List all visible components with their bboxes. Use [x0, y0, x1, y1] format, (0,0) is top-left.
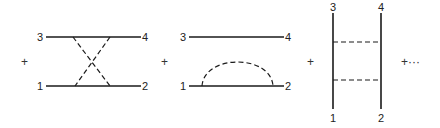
label-1: 1	[330, 112, 336, 124]
plus-ellipsis-operator: +···	[401, 55, 420, 69]
plus-operator: +	[161, 55, 168, 69]
label-1: 1	[180, 80, 186, 92]
label-3: 3	[37, 31, 43, 43]
term-self-energy-loop: + 3 4 1 2	[161, 31, 291, 92]
dashed-arc	[202, 62, 273, 86]
plus-operator: +	[307, 55, 314, 69]
label-2: 2	[142, 80, 148, 92]
feynman-diagram-series: + 3 4 1 2 + 3 4 1 2 + 3 4 1 2 +···	[0, 0, 440, 128]
label-2: 2	[378, 112, 384, 124]
label-4: 4	[378, 1, 384, 13]
term-ladder-exchange: + 3 4 1 2	[307, 1, 384, 124]
label-4: 4	[142, 31, 148, 43]
label-1: 1	[37, 80, 43, 92]
label-3: 3	[180, 31, 186, 43]
label-2: 2	[285, 80, 291, 92]
term-crossed-exchange: + 3 4 1 2	[21, 31, 148, 92]
label-4: 4	[285, 31, 291, 43]
label-3: 3	[330, 1, 336, 13]
plus-operator: +	[21, 55, 28, 69]
